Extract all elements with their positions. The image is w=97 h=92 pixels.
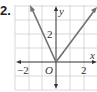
x-tick-label-2: 2 — [81, 64, 87, 76]
coordinate-graph: y x O −2 2 2 — [0, 0, 97, 92]
y-axis-up-arrow-icon — [54, 6, 58, 11]
y-tick-label-2: 2 — [47, 28, 53, 40]
x-tick-label-neg2: −2 — [17, 64, 29, 76]
y-axis-down-arrow-icon — [54, 84, 58, 89]
curve-right-arrow-icon — [91, 7, 97, 13]
y-axis-label: y — [58, 5, 64, 17]
origin-label: O — [45, 64, 53, 76]
x-axis-label: x — [89, 49, 95, 61]
